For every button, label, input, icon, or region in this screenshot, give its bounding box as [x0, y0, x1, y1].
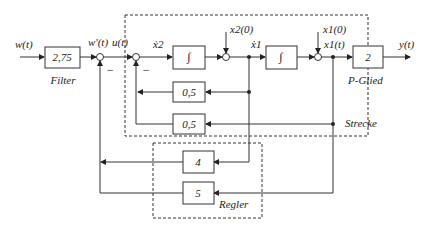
label-x1-init: x1(0) — [322, 23, 347, 36]
label-w: w(t) — [15, 38, 33, 51]
summing-junction-2 — [133, 54, 140, 61]
label-x2-init: x2(0) — [229, 23, 254, 36]
regler-k2-out-line — [100, 61, 183, 193]
label-u: u(t) — [112, 36, 128, 49]
filter-gain: 2,75 — [52, 51, 72, 63]
filter-label: Filter — [49, 74, 76, 86]
summing-junction-3 — [223, 54, 230, 61]
regler-label: Regler — [218, 198, 249, 210]
strecke-label: Strecke — [345, 117, 377, 129]
p-glied-label: P-Glied — [347, 74, 383, 86]
regler-k2-gain: 5 — [195, 187, 201, 199]
sum2-minus: − — [142, 63, 150, 77]
label-x2dot: ẋ2 — [152, 38, 164, 50]
label-w-prime: w'(t) — [88, 36, 108, 49]
label-x1: x1(t) — [323, 38, 345, 51]
sum1-minus: − — [106, 63, 114, 77]
regler-k1-gain: 4 — [195, 156, 201, 168]
fb-x1dot-line — [206, 57, 249, 92]
label-x1dot: ẋ1 — [250, 38, 261, 50]
summing-junction-4 — [315, 54, 322, 61]
block-diagram: w(t) 2,75 Filter w'(t) u(t) − − ẋ2 ∫ x2(… — [0, 0, 427, 230]
strecke-fb1-gain: 0,5 — [182, 86, 196, 98]
p-glied-gain: 2 — [365, 51, 371, 63]
summing-junction-1 — [97, 54, 104, 61]
label-y: y(t) — [398, 38, 415, 51]
integrator-1-symbol: ∫ — [186, 50, 191, 64]
strecke-fb2-gain: 0,5 — [182, 118, 196, 130]
regler-k1-in-line — [214, 92, 249, 162]
regler-k2-in-line — [214, 124, 333, 193]
integrator-2-symbol: ∫ — [278, 50, 283, 64]
